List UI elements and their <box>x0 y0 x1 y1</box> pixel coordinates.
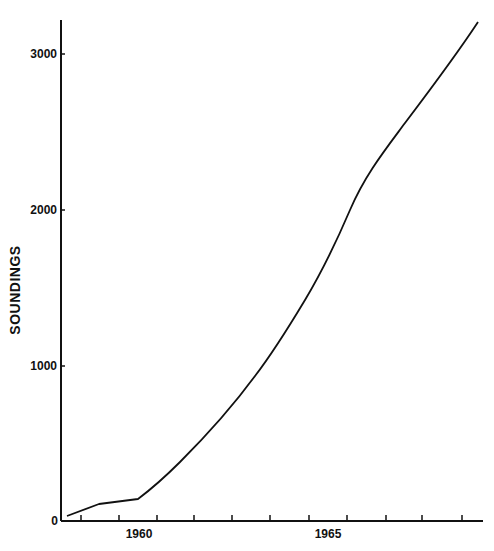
y-tick-label-0: 0 <box>51 514 58 528</box>
y-tick-label-3000: 3000 <box>30 47 57 61</box>
y-tick-label-1000: 1000 <box>30 359 57 373</box>
y-axis-title: SOUNDINGS <box>7 245 23 334</box>
soundings-line <box>67 22 478 516</box>
x-tick-label-1960: 1960 <box>126 527 153 541</box>
x-tick-label-1965: 1965 <box>315 527 342 541</box>
y-tick-label-2000: 2000 <box>30 203 57 217</box>
soundings-chart: 3000 2000 1000 0 1960 1965 SOUNDINGS <box>0 0 494 551</box>
